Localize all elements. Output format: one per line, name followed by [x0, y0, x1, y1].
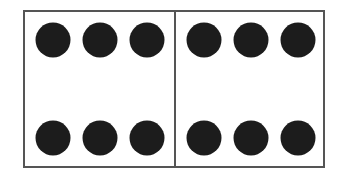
dot-left-bottom-2 [83, 121, 118, 156]
dot-right-top-3 [281, 23, 316, 58]
dot-left-top-1 [36, 23, 71, 58]
dot-left-top-3 [130, 23, 165, 58]
dot-right-bottom-1 [187, 121, 222, 156]
dot-left-bottom-3 [130, 121, 165, 156]
dot-left-bottom-1 [36, 121, 71, 156]
dot-right-top-2 [234, 23, 269, 58]
dot-right-bottom-3 [281, 121, 316, 156]
dot-right-bottom-2 [234, 121, 269, 156]
dot-right-top-1 [187, 23, 222, 58]
panel-divider [174, 10, 176, 168]
dot-diagram [0, 0, 346, 181]
dot-left-top-2 [83, 23, 118, 58]
